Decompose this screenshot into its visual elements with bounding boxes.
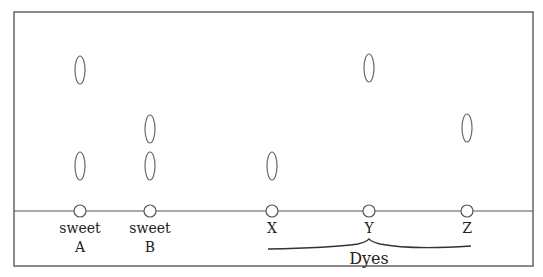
origin-point xyxy=(74,205,86,217)
lane-dye-x: X xyxy=(266,152,278,236)
spot xyxy=(145,152,155,180)
spot xyxy=(75,152,85,180)
lane-label: Y xyxy=(363,220,374,236)
spot xyxy=(364,54,374,82)
lane-label: Z xyxy=(462,220,472,236)
lane-sweet-a: sweetA xyxy=(59,56,101,255)
origin-point xyxy=(363,205,375,217)
dyes-label: Dyes xyxy=(349,249,389,268)
origin-point xyxy=(266,205,278,217)
spot xyxy=(75,56,85,84)
lane-sublabel: A xyxy=(74,239,86,255)
origin-point xyxy=(461,205,473,217)
lane-label: sweet xyxy=(59,220,101,236)
lane-label: X xyxy=(267,220,277,236)
spot xyxy=(145,115,155,143)
spot xyxy=(267,152,277,180)
lane-sweet-b: sweetB xyxy=(129,115,171,255)
lane-label: sweet xyxy=(129,220,171,236)
spot xyxy=(462,114,472,142)
dyes-brace xyxy=(268,239,471,249)
lane-sublabel: B xyxy=(145,239,155,255)
chromatogram-diagram: sweetAsweetBXYZ Dyes xyxy=(0,0,543,277)
origin-point xyxy=(144,205,156,217)
lane-dye-z: Z xyxy=(461,114,473,236)
lane-dye-y: Y xyxy=(363,54,375,236)
